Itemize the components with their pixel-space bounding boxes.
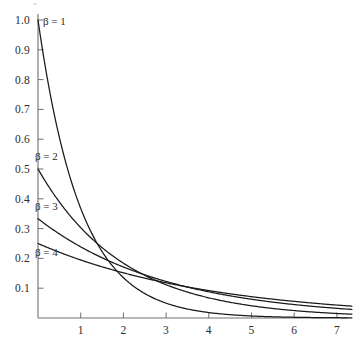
- curve-label-beta-1: β = 1: [43, 15, 66, 27]
- x-tick-label-5: 5: [249, 324, 255, 336]
- x-tick-label-2: 2: [120, 324, 126, 336]
- curve-label-beta-3: β = 3: [35, 200, 58, 212]
- y-tick-label-0.8: 0.8: [0, 74, 30, 86]
- y-tick-label-0.5: 0.5: [0, 163, 30, 175]
- plot-canvas: [0, 0, 362, 340]
- curve-beta-1: [38, 20, 352, 318]
- exponential-pdf-figure: 0.10.20.30.40.50.60.70.80.91.0 1234567 β…: [0, 0, 362, 340]
- y-tick-label-0.2: 0.2: [0, 252, 30, 264]
- y-tick-label-0.3: 0.3: [0, 223, 30, 235]
- curve-beta-2: [38, 169, 352, 314]
- y-tick-label-1.0: 1.0: [0, 14, 30, 26]
- x-tick-label-4: 4: [206, 324, 212, 336]
- y-tick-label-0.6: 0.6: [0, 133, 30, 145]
- curve-beta-4: [38, 244, 352, 307]
- x-tick-label-3: 3: [163, 324, 169, 336]
- curve-label-beta-2: β = 2: [35, 150, 58, 162]
- x-tick-label-6: 6: [291, 324, 297, 336]
- x-tick-label-7: 7: [334, 324, 340, 336]
- y-tick-label-0.7: 0.7: [0, 103, 30, 115]
- y-tick-label-0.9: 0.9: [0, 44, 30, 56]
- curve-label-beta-4: β = 4: [35, 246, 58, 258]
- y-tick-label-0.1: 0.1: [0, 282, 30, 294]
- y-tick-label-0.4: 0.4: [0, 193, 30, 205]
- x-tick-label-1: 1: [78, 324, 84, 336]
